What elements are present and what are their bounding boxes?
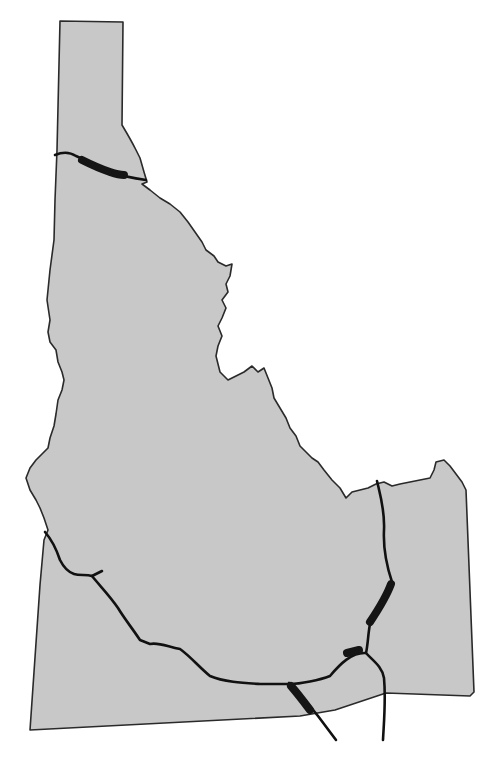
junction-segment — [347, 650, 359, 653]
idaho-state-outline — [26, 21, 474, 730]
idaho-map — [0, 0, 502, 761]
